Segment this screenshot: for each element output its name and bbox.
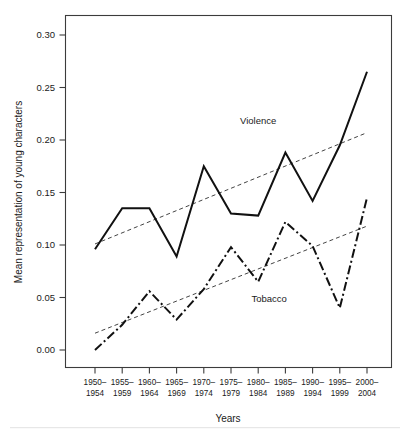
y-tick-label: 0.20 — [37, 134, 56, 145]
x-tick-label-bottom: 1979 — [222, 389, 241, 398]
x-tick-label-bottom: 1959 — [113, 389, 132, 398]
x-tick-label-bottom: 1999 — [331, 389, 350, 398]
x-tick-label-top: 1985– — [274, 378, 297, 387]
x-tick-label-top: 1955– — [111, 378, 134, 387]
x-tick-label-top: 1960– — [138, 378, 161, 387]
x-tick-label-top: 1995– — [328, 378, 351, 387]
x-tick-label-bottom: 1994 — [303, 389, 322, 398]
scan-artifact — [10, 427, 400, 428]
x-tick-label-bottom: 1954 — [86, 389, 105, 398]
x-tick-label-top: 1990– — [301, 378, 324, 387]
y-tick-label: 0.05 — [37, 292, 56, 303]
figure-container: 0.000.050.100.150.200.250.30 1950–195419… — [0, 0, 411, 430]
x-axis-title: Years — [215, 413, 240, 424]
y-tick-label: 0.25 — [37, 82, 56, 93]
x-tick-label-bottom: 1964 — [140, 389, 159, 398]
x-tick-label-top: 2000– — [356, 378, 379, 387]
x-tick-label-top: 1975– — [220, 378, 243, 387]
x-tick-label-bottom: 1989 — [276, 389, 295, 398]
x-tick-label-bottom: 1974 — [195, 389, 214, 398]
x-tick-label-top: 1965– — [165, 378, 188, 387]
series-label-violence: Violence — [240, 115, 276, 126]
y-tick-label: 0.15 — [37, 187, 56, 198]
x-tick-label-top: 1980– — [247, 378, 270, 387]
y-tick-label: 0.00 — [37, 344, 56, 355]
x-tick-label-top: 1970– — [192, 378, 215, 387]
x-tick-label-top: 1950– — [84, 378, 107, 387]
series-label-tobacco: Tobacco — [251, 293, 286, 304]
x-tick-label-bottom: 1969 — [167, 389, 186, 398]
line-chart: 0.000.050.100.150.200.250.30 1950–195419… — [0, 0, 411, 430]
x-tick-label-bottom: 1984 — [249, 389, 268, 398]
y-tick-label: 0.10 — [37, 239, 56, 250]
y-axis-title: Mean representation of young characters — [13, 101, 24, 283]
x-tick-label-bottom: 2004 — [358, 389, 377, 398]
chart-background — [0, 0, 411, 430]
y-tick-label: 0.30 — [37, 29, 56, 40]
